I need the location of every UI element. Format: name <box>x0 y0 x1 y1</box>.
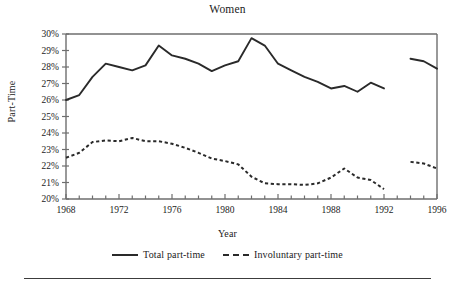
data-series-total-part-time-segment-1 <box>411 59 438 69</box>
chart-figure: Women Part-Time 20%21%22%23%24%25%26%27%… <box>0 0 455 290</box>
data-series-involuntary-part-time-segment-0 <box>66 138 384 189</box>
legend-label-involuntary-part-time: Involuntary part-time <box>254 249 343 260</box>
y-axis-tick-label: 29% <box>42 46 60 56</box>
y-axis-tick-label: 30% <box>42 29 60 39</box>
x-axis-tick-label: 1968 <box>57 205 76 215</box>
legend-label-total-part-time: Total part-time <box>143 249 205 260</box>
x-axis-tick-label: 1996 <box>428 205 447 215</box>
x-axis-tick-label: 1992 <box>375 205 394 215</box>
data-series-total-part-time-segment-0 <box>66 38 384 100</box>
x-axis-tick-label: 1976 <box>163 205 182 215</box>
y-axis-tick-label: 27% <box>42 79 60 89</box>
y-axis-tick-label: 28% <box>42 62 60 72</box>
y-axis-tick-label: 26% <box>42 95 60 105</box>
y-axis-tick-label: 22% <box>42 161 60 171</box>
x-axis-tick-label: 1988 <box>322 205 341 215</box>
footer-divider <box>24 278 431 279</box>
y-axis-tick-label: 24% <box>42 128 60 138</box>
y-axis-tick-label: 25% <box>42 112 60 122</box>
chart-plot-area: 20%21%22%23%24%25%26%27%28%29%30%1968197… <box>0 0 455 290</box>
data-series-involuntary-part-time-segment-1 <box>411 162 438 169</box>
y-axis-tick-label: 21% <box>42 178 60 188</box>
x-axis-tick-label: 1984 <box>269 205 288 215</box>
x-axis-tick-label: 1972 <box>110 205 129 215</box>
legend-item-total-part-time: Total part-time <box>112 249 205 260</box>
x-axis-tick-label: 1980 <box>216 205 235 215</box>
legend-swatch-solid-icon <box>112 254 138 256</box>
legend-item-involuntary-part-time: Involuntary part-time <box>223 249 343 260</box>
y-axis-tick-label: 20% <box>42 194 60 204</box>
x-axis-label: Year <box>0 228 455 239</box>
chart-legend: Total part-time Involuntary part-time <box>0 249 455 260</box>
legend-swatch-dashed-icon <box>223 254 249 256</box>
y-axis-tick-label: 23% <box>42 145 60 155</box>
